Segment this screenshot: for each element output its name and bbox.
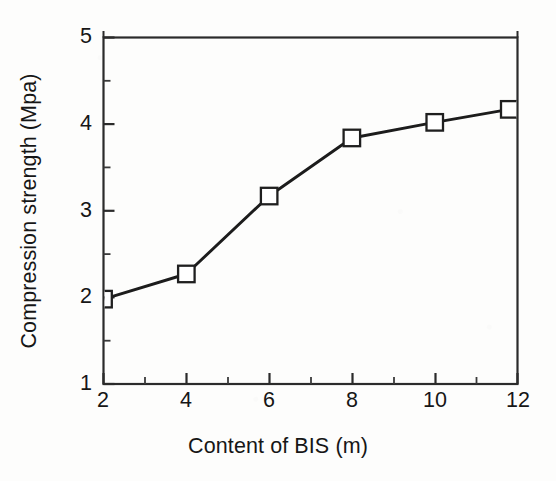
x-axis-title: Content of BIS (m) <box>0 436 556 458</box>
y-tick-label: 4 <box>62 113 92 135</box>
plot-frame <box>104 38 518 385</box>
data-point-marker <box>427 114 444 131</box>
y-axis-title: Compression strength (Mpa) <box>19 37 53 385</box>
x-tick-label: 4 <box>163 390 209 412</box>
x-tick-label: 10 <box>412 390 458 412</box>
data-point-marker <box>344 130 361 147</box>
data-point-marker <box>178 266 195 283</box>
x-tick-label: 6 <box>246 390 292 412</box>
y-tick-label: 5 <box>62 26 92 48</box>
data-line-series-1 <box>104 109 510 299</box>
x-tick-label: 8 <box>329 390 375 412</box>
x-tick-label: 12 <box>495 390 541 412</box>
y-tick-label: 3 <box>62 200 92 222</box>
data-point-marker <box>261 188 278 205</box>
data-point-marker <box>501 101 518 118</box>
y-tick-label: 2 <box>62 286 92 308</box>
figure-canvas: 5 4 3 2 1 2 4 6 8 10 12 Content of BIS (… <box>0 0 556 481</box>
y-major-ticks <box>104 38 115 385</box>
data-markers-series-1 <box>95 101 517 307</box>
x-tick-label: 2 <box>80 390 126 412</box>
